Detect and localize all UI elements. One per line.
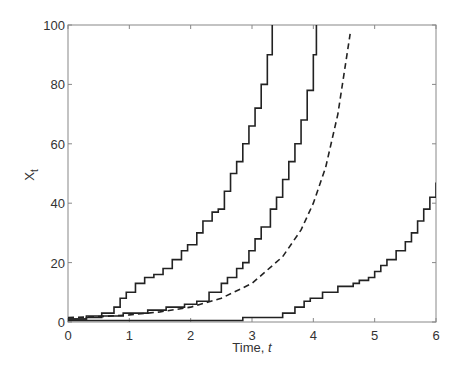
x-tick-label: 5 (371, 328, 378, 343)
x-axis-label: Time, t (232, 340, 273, 355)
x-tick-label: 2 (187, 328, 194, 343)
plot-area (68, 25, 436, 322)
x-tick-label: 4 (310, 328, 317, 343)
y-tick-label: 80 (51, 77, 65, 92)
y-tick-label: 0 (58, 315, 65, 330)
chart-svg: 0123456020406080100 Time, t Xt (0, 0, 457, 372)
y-tick-label: 60 (51, 137, 65, 152)
chart-figure: 0123456020406080100 Time, t Xt (0, 0, 457, 372)
y-axis-label: Xt (22, 169, 40, 181)
x-tick-label: 1 (126, 328, 133, 343)
x-tick-label: 0 (64, 328, 71, 343)
y-tick-label: 40 (51, 196, 65, 211)
x-tick-label: 6 (432, 328, 439, 343)
y-axis-label-group: Xt (22, 169, 40, 181)
y-tick-label: 100 (43, 18, 65, 33)
y-tick-label: 20 (51, 256, 65, 271)
